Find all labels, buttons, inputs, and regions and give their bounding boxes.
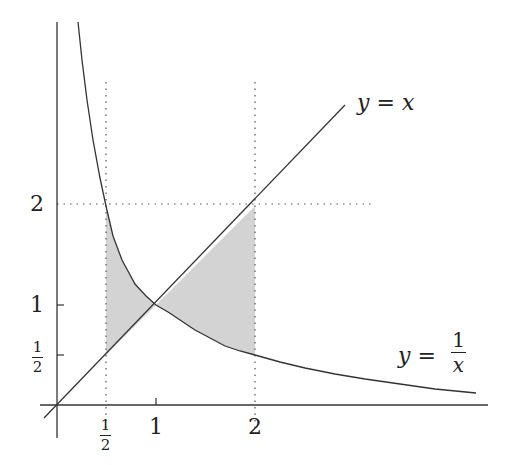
label-rhs: x [402,90,414,115]
plot-canvas [0,0,512,465]
label-lhs: y [398,343,410,368]
label-eq: = [417,343,435,368]
label-y-equals-x: y = x [357,92,414,114]
curve-y-equals-1-over-x [78,22,476,393]
line-y-equals-x [44,105,345,418]
frac-num: 1 [33,340,43,355]
frac-den: 2 [101,438,111,453]
label-lhs: y [357,90,369,115]
y-tick-label-half: 1 2 [32,340,43,375]
label-eq: = [376,90,394,115]
shaded-region-left [106,206,156,355]
frac-num: 1 [452,330,465,350]
x-tick-label-1: 1 [149,416,163,438]
frac-den: 2 [33,360,43,375]
label-fraction-1-over-x: 1 x [451,330,466,375]
frac-num: 1 [101,418,111,433]
shaded-region-right [156,206,255,355]
y-tick-label-1: 1 [30,294,44,316]
x-tick-label-half: 1 2 [100,418,111,453]
y-tick-label-2: 2 [30,193,44,215]
frac-den: x [453,355,464,375]
x-tick-label-2: 2 [248,416,262,438]
label-y-equals-1-over-x: y = [398,345,436,367]
